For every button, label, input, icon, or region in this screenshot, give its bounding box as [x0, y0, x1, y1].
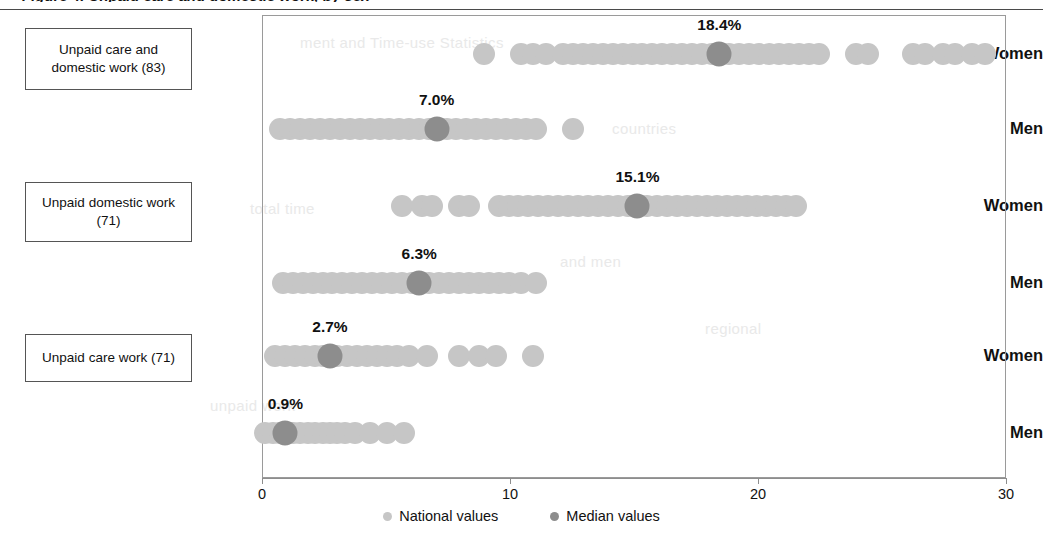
x-tick-label-10: 10: [502, 486, 518, 502]
x-tick-mark-10: [510, 478, 511, 484]
legend-swatch-median-icon: [550, 512, 559, 521]
figure-container: Figure 4. Unpaid care and domestic work,…: [0, 0, 1043, 535]
national-value-dot: [562, 118, 584, 140]
legend-label-national: National values: [399, 508, 498, 524]
category-label-2: Unpaid care work (71): [42, 349, 175, 367]
x-tick-label-20: 20: [750, 486, 766, 502]
legend-label-median: Median values: [566, 508, 660, 524]
national-value-dot: [416, 345, 438, 367]
median-value-dot: [625, 194, 650, 219]
national-value-dot: [857, 43, 879, 65]
median-value-dot: [407, 271, 432, 296]
plot-area: 18.4%7.0%15.1%6.3%2.7%0.9%: [262, 15, 1006, 478]
national-value-dot: [391, 195, 413, 217]
chart-legend: National valuesMedian values: [0, 508, 1043, 524]
legend-item-national[interactable]: National values: [383, 508, 498, 524]
national-value-dot: [525, 272, 547, 294]
national-value-dot: [473, 43, 495, 65]
category-box-unpaid-domestic-work: Unpaid domestic work (71): [25, 182, 192, 242]
median-value-dot: [707, 42, 732, 67]
national-value-dot: [421, 195, 443, 217]
x-tick-mark-30: [1006, 478, 1007, 484]
median-value-label: 2.7%: [312, 318, 347, 336]
national-value-dot: [485, 345, 507, 367]
median-value-dot: [273, 421, 298, 446]
median-value-dot: [317, 344, 342, 369]
figure-title-text: Figure 4. Unpaid care and domestic work,…: [0, 0, 1043, 2]
median-value-label: 15.1%: [615, 168, 659, 186]
category-label-0: Unpaid care and domestic work (83): [32, 41, 185, 77]
median-value-dot: [424, 117, 449, 142]
median-value-label: 18.4%: [697, 16, 741, 34]
x-tick-mark-0: [262, 478, 263, 484]
x-axis-line: [262, 478, 1006, 479]
national-value-dot: [785, 195, 807, 217]
national-value-dot: [393, 422, 415, 444]
national-value-dot: [448, 345, 470, 367]
median-value-label: 7.0%: [419, 91, 454, 109]
national-value-dot: [458, 195, 480, 217]
title-rule: [0, 9, 1043, 10]
median-value-label: 0.9%: [268, 395, 303, 413]
category-label-1: Unpaid domestic work (71): [32, 194, 185, 230]
legend-swatch-national-icon: [383, 512, 392, 521]
x-tick-mark-20: [758, 478, 759, 484]
category-box-unpaid-care-and-domestic-work: Unpaid care and domestic work (83): [25, 28, 192, 90]
median-value-label: 6.3%: [402, 245, 437, 263]
national-value-dot: [808, 43, 830, 65]
national-value-dot: [974, 43, 996, 65]
legend-item-median[interactable]: Median values: [550, 508, 660, 524]
category-box-unpaid-care-work: Unpaid care work (71): [25, 334, 192, 382]
x-tick-label-0: 0: [258, 486, 266, 502]
figure-title-clipped: Figure 4. Unpaid care and domestic work,…: [0, 0, 1043, 2]
national-value-dot: [525, 118, 547, 140]
x-tick-label-30: 30: [998, 486, 1014, 502]
national-value-dot: [522, 345, 544, 367]
